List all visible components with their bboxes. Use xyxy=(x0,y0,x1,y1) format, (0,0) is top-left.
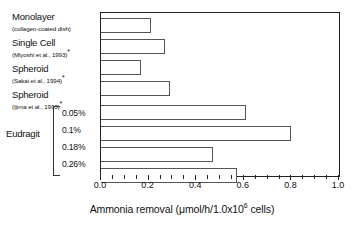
x-axis-minor-tick xyxy=(219,175,220,179)
x-axis-minor-tick xyxy=(279,175,280,179)
x-axis-minor-tick xyxy=(124,175,125,179)
x-axis-minor-tick xyxy=(112,175,113,179)
ammonia-removal-bar-chart: Monolayer (collagen-coated dish) Single … xyxy=(0,0,364,228)
percent-label: 0.18% xyxy=(62,142,85,152)
category-label-spheroid-sakai: Spheroid (Sakai et al., 1994)* xyxy=(12,64,65,84)
x-axis-tick-label: 0.0 xyxy=(94,180,107,190)
x-axis-tick-label: 0.2 xyxy=(141,180,154,190)
category-label-sub: (Sakai et al., 1994)* xyxy=(12,74,65,84)
percent-label: 0.05% xyxy=(62,108,85,118)
x-axis-minor-tick xyxy=(314,175,315,179)
bar-series xyxy=(101,13,339,176)
category-label-sub: (Miyoshi et al., 1993)* xyxy=(12,48,70,58)
x-axis-minor-tick xyxy=(255,175,256,179)
bar xyxy=(101,81,170,96)
group-label-eudragit: Eudragit xyxy=(6,128,40,139)
category-label-monolayer: Monolayer (collagen-coated dish) xyxy=(12,12,71,32)
category-label-main: Spheroid xyxy=(12,90,62,100)
x-axis-minor-tick xyxy=(171,175,172,179)
percent-label: 0.26% xyxy=(62,159,85,169)
footnote-asterisk: * xyxy=(67,48,70,55)
x-axis-title: Ammonia removal (μmol/h/1.0x106 cells) xyxy=(0,202,364,215)
x-axis-minor-tick xyxy=(183,175,184,179)
x-axis-minor-tick xyxy=(136,175,137,179)
x-axis-minor-tick xyxy=(160,175,161,179)
category-label-main: Monolayer xyxy=(12,12,71,22)
bar xyxy=(101,126,291,141)
footnote-asterisk: * xyxy=(62,74,65,81)
category-label-main: Single Cell xyxy=(12,38,70,48)
bar xyxy=(101,105,246,120)
x-axis-tick-label: 1.0 xyxy=(332,180,345,190)
plot-area xyxy=(100,12,340,177)
x-axis-minor-tick xyxy=(326,175,327,179)
x-axis-minor-tick xyxy=(231,175,232,179)
group-bracket xyxy=(53,106,60,176)
x-axis-minor-tick xyxy=(302,175,303,179)
x-axis-tick-label: 0.4 xyxy=(189,180,202,190)
category-label-single-cell: Single Cell (Miyoshi et al., 1993)* xyxy=(12,38,70,58)
x-axis-minor-tick xyxy=(267,175,268,179)
x-axis-minor-tick xyxy=(207,175,208,179)
percent-label: 0.1% xyxy=(62,125,81,135)
bar xyxy=(101,18,151,33)
bar xyxy=(101,60,141,75)
x-axis-tick-labels: 0.00.20.40.60.81.0 xyxy=(0,180,364,194)
x-axis-tick-label: 0.8 xyxy=(284,180,297,190)
x-axis-tick-label: 0.6 xyxy=(237,180,250,190)
x-axis-title-suffix: cells) xyxy=(248,203,275,215)
category-label-main: Spheroid xyxy=(12,64,65,74)
x-axis-title-prefix: Ammonia removal (μmol/h/1.0x10 xyxy=(90,203,244,215)
bar xyxy=(101,147,213,162)
eudragit-percent-labels: 0.05% 0.1% 0.18% 0.26% xyxy=(62,106,98,174)
bar xyxy=(101,39,165,54)
category-label-sub: (collagen-coated dish) xyxy=(12,22,71,32)
